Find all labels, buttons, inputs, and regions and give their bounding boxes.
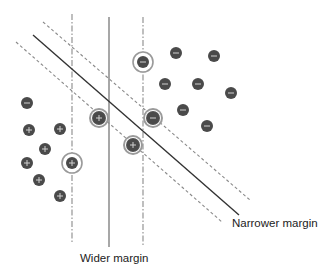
- point-minus: [225, 87, 237, 99]
- point-minus: [170, 47, 182, 59]
- support-vector-plus: [123, 135, 143, 155]
- point-plus: [54, 190, 66, 202]
- narrower-margin-label: Narrower margin: [232, 217, 318, 229]
- wider-margin-label: Wider margin: [80, 252, 148, 264]
- data-points: [21, 47, 237, 202]
- point-plus: [33, 174, 45, 186]
- support-vector-minus: [143, 108, 163, 128]
- diagonal-lower-margin-line: [16, 42, 222, 222]
- point-plus: [39, 143, 51, 155]
- point-minus: [159, 78, 171, 90]
- point-plus: [54, 123, 66, 135]
- svm-margin-diagram: Wider margin Narrower margin: [0, 0, 326, 275]
- point-plus: [23, 124, 35, 136]
- point-minus: [177, 104, 189, 116]
- support-vector-plus: [62, 153, 82, 173]
- support-vector-minus: [133, 52, 153, 72]
- point-plus: [21, 157, 33, 169]
- decision-lines: [16, 14, 250, 247]
- point-minus: [201, 120, 213, 132]
- point-minus: [192, 78, 204, 90]
- point-minus: [21, 97, 33, 109]
- support-vector-plus: [89, 108, 109, 128]
- point-minus: [208, 50, 220, 62]
